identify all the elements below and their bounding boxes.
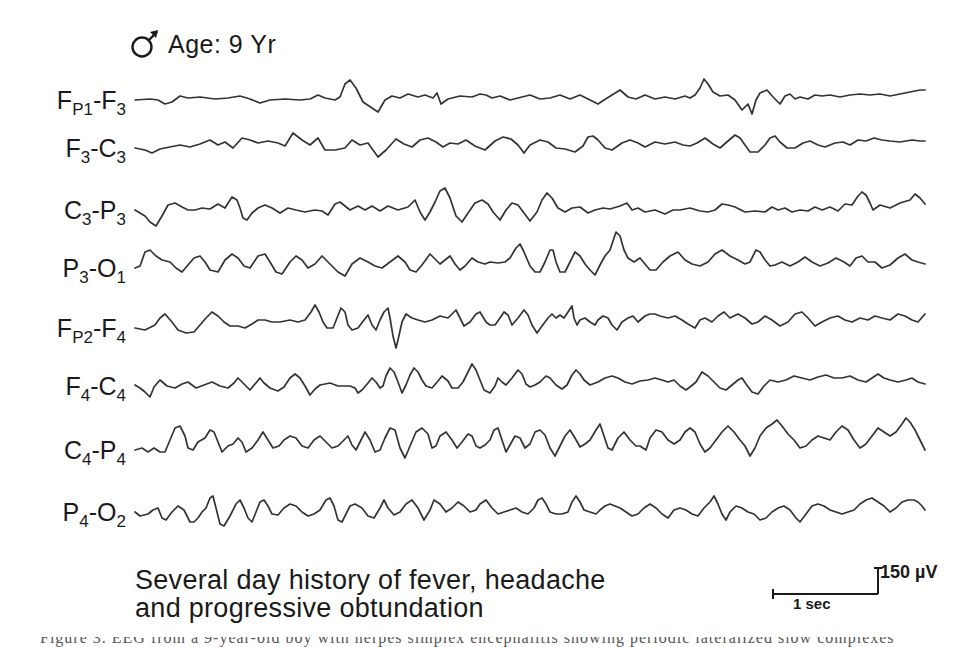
caption-line-1: Several day history of fever, headache <box>135 566 606 594</box>
eeg-trace-c4-p4 <box>135 418 925 458</box>
figure-caption-cutoff: Figure 3. EEG from a 9-year-old boy with… <box>40 637 940 647</box>
eeg-trace-p4-o2 <box>135 496 925 526</box>
scale-amplitude-label: 150 µV <box>880 562 937 583</box>
eeg-trace-f3-c3 <box>135 133 925 157</box>
eeg-trace-f4-c4 <box>135 364 925 397</box>
eeg-trace-p3-o1 <box>135 232 925 276</box>
clinical-history-caption: Several day history of fever, headache a… <box>135 566 606 622</box>
eeg-traces <box>0 0 961 647</box>
caption-line-2: and progressive obtundation <box>135 594 606 622</box>
eeg-trace-fp1-f3 <box>135 79 925 114</box>
eeg-trace-fp2-f4 <box>135 305 925 348</box>
eeg-figure: Age: 9 Yr FP1-F3F3-C3C3-P3P3-O1FP2-F4F4-… <box>0 0 961 647</box>
scale-time-label: 1 sec <box>793 595 831 612</box>
eeg-trace-c3-p3 <box>135 188 925 226</box>
